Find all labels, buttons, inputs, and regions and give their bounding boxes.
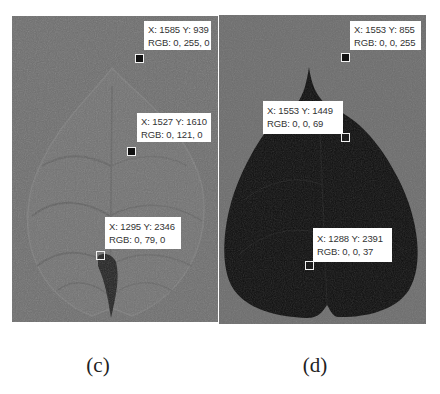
pixel-marker-d-3 (305, 261, 314, 270)
pixel-marker-d-1 (341, 53, 350, 62)
coord-label: X: 1585 Y: 939 (148, 23, 207, 36)
rgb-label: RGB: 0, 0, 37 (317, 245, 388, 258)
coord-label: X: 1295 Y: 2346 (109, 220, 177, 233)
rgb-label: RGB: 0, 121, 0 (141, 128, 207, 141)
pixel-marker-c-1 (135, 54, 144, 63)
pixel-callout-c-1: X: 1585 Y: 939 RGB: 0, 255, 0 (144, 21, 211, 50)
caption-c: (c) (86, 353, 109, 378)
pixel-callout-d-3: X: 1288 Y: 2391 RGB: 0, 0, 37 (313, 228, 392, 262)
leaf-venation-graphic (12, 16, 218, 322)
panel-d-image: X: 1553 Y: 855 RGB: 0, 0, 255 X: 1553 Y:… (219, 15, 426, 324)
pixel-callout-c-2: X: 1527 Y: 1610 RGB: 0, 121, 0 (137, 113, 211, 142)
pixel-callout-d-1: X: 1553 Y: 855 RGB: 0, 0, 255 (350, 21, 421, 50)
panel-c-image: X: 1585 Y: 939 RGB: 0, 255, 0 X: 1527 Y:… (12, 16, 218, 322)
pixel-marker-d-2 (341, 133, 350, 142)
pixel-marker-c-3 (96, 251, 105, 260)
rgb-label: RGB: 0, 79, 0 (109, 233, 177, 246)
coord-label: X: 1288 Y: 2391 (317, 232, 388, 245)
caption-d: (d) (303, 353, 328, 378)
rgb-label: RGB: 0, 255, 0 (148, 36, 207, 49)
rgb-label: RGB: 0, 0, 255 (354, 36, 417, 49)
pixel-callout-d-2: X: 1553 Y: 1449 RGB: 0, 0, 69 (263, 101, 343, 134)
coord-label: X: 1553 Y: 855 (354, 23, 417, 36)
coord-label: X: 1527 Y: 1610 (141, 115, 207, 128)
coord-label: X: 1553 Y: 1449 (267, 104, 339, 117)
leaf-silhouette-graphic (219, 15, 426, 324)
pixel-callout-c-3: X: 1295 Y: 2346 RGB: 0, 79, 0 (105, 217, 181, 249)
pixel-marker-c-2 (127, 147, 136, 156)
rgb-label: RGB: 0, 0, 69 (267, 117, 339, 130)
